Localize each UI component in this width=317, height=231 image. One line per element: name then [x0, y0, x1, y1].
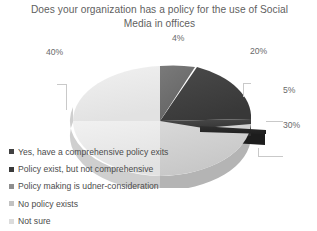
leader-line-30-h — [258, 156, 283, 157]
legend-swatch-icon — [9, 149, 14, 154]
legend-item-label: Policy making is udner-consideration — [18, 181, 159, 191]
data-label-policy-making: 30% — [283, 120, 300, 130]
legend-item-yes-comprehensive[interactable]: Yes, have a comprehensive policy exits — [9, 143, 209, 160]
data-label-yes-comprehensive: 20% — [250, 46, 267, 56]
legend-item-not-sure[interactable]: Not sure — [9, 213, 209, 230]
chart-screenshot: Does your organization has a policy for … — [0, 0, 317, 231]
legend-item-policy-exist[interactable]: Policy exist, but not comprehensive — [9, 160, 209, 177]
chart-title-line-2: Media in offices — [124, 18, 195, 29]
legend-item-label: Policy exist, but not comprehensive — [18, 164, 153, 174]
legend-swatch-icon — [9, 201, 14, 206]
data-label-not-sure: 4% — [172, 33, 184, 43]
data-label-policy-exist: 5% — [283, 85, 295, 95]
pie-slice-no-policy-exists[interactable] — [73, 66, 160, 121]
leader-line-40-h — [57, 84, 67, 85]
leader-line-20 — [243, 83, 244, 97]
legend-item-policy-making[interactable]: Policy making is udner-consideration — [9, 178, 209, 195]
chart-legend: Yes, have a comprehensive policy exits P… — [9, 143, 209, 230]
legend-item-label: No policy exists — [18, 199, 78, 209]
leader-line-40 — [66, 84, 67, 110]
legend-item-label: Not sure — [18, 216, 51, 226]
leader-line-20-h — [243, 83, 251, 84]
chart-title-line-1: Does your organization has a policy for … — [31, 4, 288, 15]
chart-title: Does your organization has a policy for … — [22, 3, 297, 30]
legend-item-no-policy-exists[interactable]: No policy exists — [9, 195, 209, 212]
legend-swatch-icon — [9, 184, 14, 189]
legend-swatch-icon — [9, 167, 14, 172]
data-label-no-policy-exists: 40% — [46, 47, 63, 57]
legend-swatch-icon — [9, 219, 14, 224]
leader-line-5 — [266, 121, 283, 122]
legend-item-label: Yes, have a comprehensive policy exits — [18, 147, 168, 157]
